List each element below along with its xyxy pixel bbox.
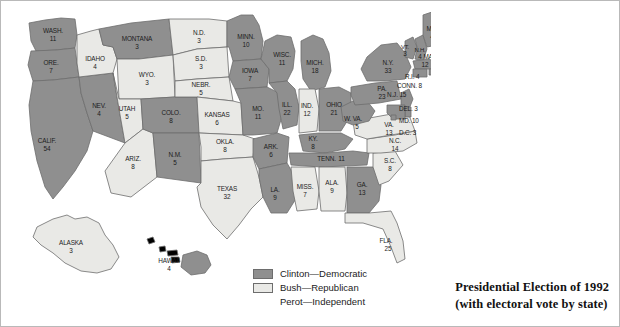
state-shape-ri[interactable] <box>429 69 431 75</box>
label-dc: D.C. 3 <box>399 129 417 136</box>
state-shape-ky[interactable] <box>299 133 353 153</box>
label-conn: CONN. 8 <box>397 82 422 89</box>
us-map-svg: WASH.11 ORE.7 CALIF.54 NEV.4 IDAHO4 MONT… <box>1 1 431 281</box>
label-nj: N.J. 15 <box>387 91 407 98</box>
label-tenn: TENN.11 <box>317 155 345 162</box>
state-shape-dc[interactable] <box>391 115 396 120</box>
us-electoral-map: WASH.11 ORE.7 CALIF.54 NEV.4 IDAHO4 MONT… <box>1 1 431 281</box>
legend-row-perot: Perot—Independent <box>253 295 433 308</box>
figure-title-line2: (with electoral vote by state) <box>455 296 609 312</box>
legend-swatch-perot <box>253 297 273 307</box>
label-md: MD. 10 <box>399 117 419 124</box>
legend-row-bush: Bush—Republican <box>253 281 433 294</box>
election-map-figure: WASH.11 ORE.7 CALIF.54 NEV.4 IDAHO4 MONT… <box>0 0 620 327</box>
label-del: DEL. 3 <box>399 105 418 112</box>
label-fla: FLA.25 <box>380 237 393 252</box>
legend-swatch-bush <box>253 283 273 293</box>
hawaii-islet-1 <box>147 237 155 244</box>
map-legend: Clinton—Democratic Bush—Republican Perot… <box>253 267 433 309</box>
hawaii-islet-3 <box>167 250 178 256</box>
figure-title: Presidential Election of 1992 (with elec… <box>455 279 609 312</box>
figure-title-line1: Presidential Election of 1992 <box>455 279 609 295</box>
hawaii-islet-2 <box>159 246 166 252</box>
state-shape-fla[interactable] <box>345 211 405 263</box>
legend-label-perot: Perot—Independent <box>280 297 365 307</box>
legend-swatch-clinton <box>253 269 273 279</box>
legend-label-clinton: Clinton—Democratic <box>280 269 367 279</box>
state-shape-hawaii[interactable] <box>181 251 211 275</box>
legend-label-bush: Bush—Republican <box>280 283 359 293</box>
legend-row-clinton: Clinton—Democratic <box>253 267 433 280</box>
label-ri: R.I. 4 <box>405 73 420 80</box>
label-hawaii: HAWAII4 <box>158 257 180 272</box>
state-shape-nm[interactable] <box>153 133 201 183</box>
